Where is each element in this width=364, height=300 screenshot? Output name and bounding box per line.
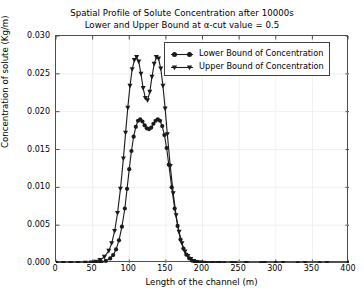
xtick-label: 0	[52, 264, 57, 273]
legend-label-upper-bound: Upper Bound of Concentration	[195, 61, 324, 71]
legend-entry-upper-bound: Upper Bound of Concentration	[169, 59, 324, 72]
chart-legend: Lower Bound of Concentration Upper Bound…	[164, 42, 330, 76]
ytick-label: 0.015	[4, 144, 50, 153]
chart-title: Spatial Profile of Solute Concentration …	[0, 7, 364, 19]
chart-title-block: Spatial Profile of Solute Concentration …	[0, 7, 364, 31]
xtick-label: 300	[267, 264, 282, 273]
ytick-label: 0.010	[4, 182, 50, 191]
triangle-down-marker-icon	[169, 59, 195, 72]
xtick-label: 200	[194, 264, 209, 273]
xtick-label: 250	[230, 264, 245, 273]
ytick-label: 0.005	[4, 220, 50, 229]
xtick-label: 400	[340, 264, 355, 273]
xtick-label: 50	[87, 264, 97, 273]
legend-label-lower-bound: Lower Bound of Concentration	[195, 48, 323, 58]
circle-marker-icon	[169, 46, 195, 59]
legend-entry-lower-bound: Lower Bound of Concentration	[169, 46, 324, 59]
x-axis-label: Length of the channel (m)	[55, 277, 348, 287]
chart-subtitle: Lower and Upper Bound at α-cut value = 0…	[0, 19, 364, 31]
xtick-label: 150	[157, 264, 172, 273]
ytick-label: 0.020	[4, 106, 50, 115]
ytick-label: 0.030	[4, 31, 50, 40]
ytick-label: 0.000	[4, 258, 50, 267]
ytick-label: 0.025	[4, 68, 50, 77]
xtick-label: 350	[304, 264, 319, 273]
chart-figure: Spatial Profile of Solute Concentration …	[0, 0, 364, 300]
y-axis-label: Concentration of solute (Kg/m)	[0, 15, 10, 148]
xtick-label: 100	[121, 264, 136, 273]
